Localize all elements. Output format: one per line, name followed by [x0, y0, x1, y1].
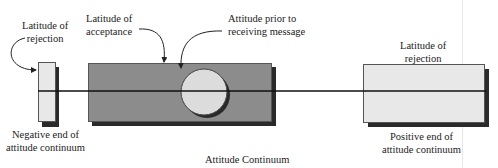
- label-line: Latitude of: [400, 39, 446, 52]
- label-line: attitude continuum: [6, 141, 85, 154]
- label-line: rejection: [400, 52, 446, 65]
- label-line: Positive end of: [382, 130, 461, 143]
- label-negative-end: Negative end of attitude continuum: [6, 128, 85, 154]
- label-line: attitude continuum: [382, 143, 461, 156]
- label-line: Latitude of: [86, 12, 132, 25]
- label-line: receiving message: [228, 25, 305, 38]
- label-prior-attitude: Attitude prior to receiving message: [228, 12, 305, 38]
- label-acceptance: Latitude of acceptance: [86, 12, 132, 38]
- label-line: acceptance: [86, 25, 132, 38]
- label-line: Attitude prior to: [228, 12, 305, 25]
- diagram-title: Attitude Continuum: [205, 153, 289, 166]
- label-line: rejection: [22, 32, 68, 45]
- label-line: Negative end of: [6, 128, 85, 141]
- label-left-rejection: Latitude of rejection: [22, 19, 68, 45]
- label-positive-end: Positive end of attitude continuum: [382, 130, 461, 156]
- label-line: Latitude of: [22, 19, 68, 32]
- label-right-rejection: Latitude of rejection: [400, 39, 446, 65]
